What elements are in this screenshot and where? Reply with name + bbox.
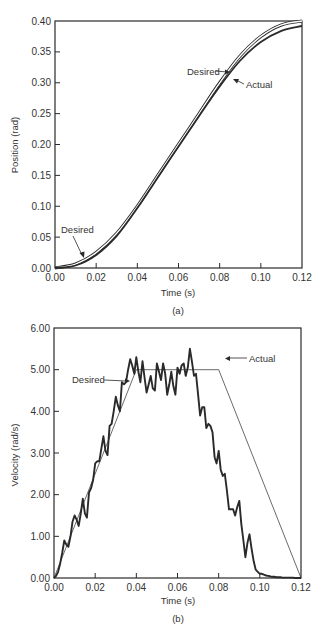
x-tick-label: 0.04 (127, 582, 147, 593)
y-tick-label: 0.20 (32, 139, 52, 150)
plot-b-frame (54, 328, 301, 578)
plot-b-y-axis-label: Velocity (rad/s) (9, 424, 20, 487)
y-tick-label: 0.35 (32, 46, 52, 57)
x-tick-label: 0.06 (169, 272, 189, 283)
x-tick-label: 0.00 (44, 582, 64, 593)
y-tick-label: 0.25 (32, 108, 52, 119)
x-tick-label: 0.08 (210, 272, 230, 283)
arrow-line (104, 380, 126, 381)
x-tick-label: 0.12 (291, 582, 311, 593)
plot-a-annotation-desired-bottom: Desired (61, 224, 94, 235)
y-tick-label: 0.40 (32, 16, 52, 27)
y-tick-label: 0.05 (32, 232, 52, 243)
x-tick-label: 0.04 (128, 272, 148, 283)
x-tick-label: 0.10 (251, 272, 271, 283)
plot-b-x-axis-label: Time (s) (161, 595, 195, 606)
x-tick-label: 0.02 (85, 582, 105, 593)
plot-a-x-ticks: 0.000.020.040.060.080.100.12 (45, 263, 312, 283)
arrow-head-icon (80, 252, 85, 259)
y-tick-label: 2.00 (31, 489, 51, 500)
y-tick-label: 0.10 (32, 201, 52, 212)
x-tick-label: 0.10 (250, 582, 270, 593)
x-tick-label: 0.06 (168, 582, 188, 593)
y-tick-label: 0.15 (32, 170, 52, 181)
plot-a-caption: (a) (172, 305, 184, 316)
arrow-line (73, 236, 82, 255)
plot-a-x-axis-label: Time (s) (161, 287, 195, 298)
plot-b-desired-line (54, 370, 301, 578)
arrow-head-icon (125, 379, 130, 384)
plot-a-y-axis-label: Position (rad) (9, 117, 20, 174)
x-tick-label: 0.02 (86, 272, 106, 283)
x-tick-label: 0.00 (45, 272, 65, 283)
plot-b-caption: (b) (172, 613, 184, 624)
velocity-chart: 0.001.002.003.004.005.006.00 0.000.020.0… (9, 323, 311, 625)
x-tick-label: 0.12 (292, 272, 312, 283)
y-tick-label: 1.00 (31, 531, 51, 542)
y-tick-label: 3.00 (31, 448, 51, 459)
position-chart: 0.000.050.100.150.200.250.300.350.40 0.0… (9, 16, 312, 317)
y-tick-label: 5.00 (31, 364, 51, 375)
plot-a-annotation-desired-top: Desired (187, 66, 220, 77)
figure: 0.000.050.100.150.200.250.300.350.40 0.0… (0, 0, 323, 626)
plot-b-annotation-desired: Desired (72, 374, 105, 385)
arrow-head-icon (225, 356, 230, 361)
plot-b-y-ticks: 0.001.002.003.004.005.006.00 (31, 323, 59, 584)
y-tick-label: 0.30 (32, 77, 52, 88)
plot-b-annotation-actual: Actual (249, 353, 275, 364)
plot-a-annotation-actual: Actual (246, 79, 272, 90)
y-tick-label: 6.00 (31, 323, 51, 334)
x-tick-label: 0.08 (209, 582, 229, 593)
plot-a-y-ticks: 0.000.050.100.150.200.250.300.350.40 (32, 16, 60, 274)
y-tick-label: 4.00 (31, 406, 51, 417)
